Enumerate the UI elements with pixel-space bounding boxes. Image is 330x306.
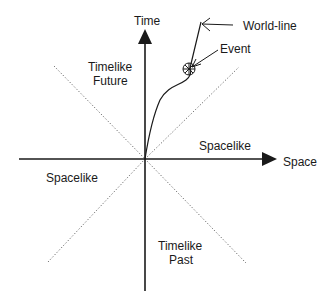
light-cone: [48, 66, 246, 263]
time-axis-arrow-icon: [138, 29, 152, 44]
time-axis: [138, 29, 152, 291]
space-axis: [19, 152, 277, 166]
timelike-future-label-line2: Future: [93, 74, 128, 88]
timelike-future-label-line1: Timelike: [88, 60, 133, 74]
event-label: Event: [220, 42, 251, 56]
timelike-past-label-line2: Past: [169, 253, 194, 267]
world-line-label: World-line: [243, 19, 297, 33]
spacelike-left-label: Spacelike: [46, 171, 98, 185]
time-axis-label: Time: [134, 14, 161, 28]
timelike-past-label-line1: Timelike: [158, 239, 203, 253]
world-line-pointer-arrow-icon: [202, 18, 233, 31]
spacelike-right-label: Spacelike: [199, 139, 251, 153]
event-pointer-arrow-icon: [192, 50, 218, 67]
space-axis-label: Space: [283, 155, 317, 169]
space-axis-arrow-icon: [262, 152, 277, 166]
spacetime-diagram: Time Space World-line Event Timelike Fut…: [0, 0, 330, 306]
world-line-curve: [145, 22, 201, 159]
